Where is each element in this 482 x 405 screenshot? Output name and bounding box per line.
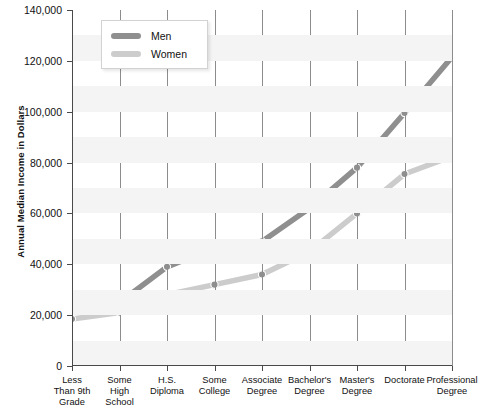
legend-item-women: Women — [111, 47, 187, 61]
grid-band — [72, 341, 452, 366]
legend-swatch-women — [111, 51, 141, 57]
grid-line-vertical — [452, 10, 453, 366]
chart-legend: Men Women — [101, 20, 208, 69]
x-tick-mark — [167, 366, 168, 371]
x-tick-mark — [120, 366, 121, 371]
legend-item-men: Men — [111, 29, 171, 43]
legend-swatch-men — [111, 33, 141, 39]
y-tick-label: 140,000 — [6, 4, 62, 16]
x-tick-mark — [357, 366, 358, 371]
y-axis-line — [72, 10, 73, 366]
grid-band — [72, 188, 452, 213]
x-tick-mark — [215, 366, 216, 371]
x-tick-mark — [262, 366, 263, 371]
legend-label-women: Women — [151, 47, 187, 61]
x-tick-mark — [310, 366, 311, 371]
x-tick-mark — [405, 366, 406, 371]
y-tick-mark — [67, 10, 72, 11]
y-tick-label: 80,000 — [6, 157, 62, 169]
y-tick-mark — [67, 264, 72, 265]
y-tick-label: 20,000 — [6, 309, 62, 321]
y-tick-mark — [67, 112, 72, 113]
y-tick-mark — [67, 213, 72, 214]
x-tick-mark — [452, 366, 453, 371]
legend-label-men: Men — [151, 29, 171, 43]
grid-band — [72, 86, 452, 111]
y-tick-mark — [67, 315, 72, 316]
y-tick-label: 100,000 — [6, 106, 62, 118]
y-tick-label: 120,000 — [6, 55, 62, 67]
y-axis-tick-labels: 020,00040,00060,00080,000100,000120,0001… — [4, 0, 62, 405]
grid-band — [72, 290, 452, 315]
x-axis-tick-labels: LessThan 9thGradeSomeHighSchoolH.S.Diplo… — [72, 366, 452, 405]
y-tick-label: 40,000 — [6, 258, 62, 270]
x-tick-mark — [72, 366, 73, 371]
y-tick-mark — [67, 61, 72, 62]
grid-band — [72, 239, 452, 264]
y-tick-label: 60,000 — [6, 207, 62, 219]
grid-band — [72, 137, 452, 162]
x-tick-label: ProfessionalDegree — [417, 375, 482, 397]
y-tick-mark — [67, 163, 72, 164]
y-tick-label: 0 — [6, 360, 62, 372]
